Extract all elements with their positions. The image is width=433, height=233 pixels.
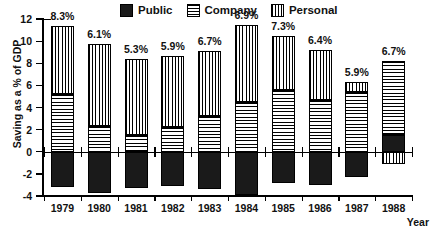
x-tick-mark	[154, 195, 155, 201]
bar-1981[interactable]: 5.3%	[125, 0, 148, 233]
x-tick-mark	[302, 195, 303, 201]
segment-company	[235, 102, 258, 152]
y-tick-label: 6	[8, 80, 32, 91]
bar-value-label-1983: 6.7%	[183, 36, 237, 47]
zero-tick-mark	[154, 147, 155, 157]
y-tick-mark	[36, 107, 43, 108]
segment-company	[161, 127, 184, 151]
segment-public	[51, 152, 74, 187]
y-tick-mark	[36, 173, 43, 174]
bar-value-label-1987: 5.9%	[330, 67, 384, 78]
bar-1986[interactable]: 6.4%	[309, 0, 332, 233]
bar-1982[interactable]: 5.9%	[161, 0, 184, 233]
zero-tick-mark	[228, 147, 229, 157]
segment-personal	[309, 50, 332, 100]
segment-public	[125, 152, 148, 189]
segment-public	[309, 152, 332, 185]
segment-personal	[161, 56, 184, 128]
y-tick-mark	[36, 129, 43, 130]
x-tick-mark	[412, 195, 413, 201]
segment-company	[125, 135, 148, 152]
bar-value-label-1980: 6.1%	[72, 29, 126, 40]
x-tick-mark	[191, 195, 192, 201]
zero-tick-mark	[118, 147, 119, 157]
x-tick-mark	[265, 195, 266, 201]
y-tick-label: 8	[8, 58, 32, 69]
segment-company	[309, 100, 332, 152]
y-tick-mark	[36, 151, 43, 152]
segment-public	[382, 135, 405, 152]
y-tick-label: -4	[8, 191, 32, 202]
segment-company	[198, 116, 221, 151]
segment-public	[345, 152, 368, 177]
segment-public	[272, 152, 295, 183]
segment-company	[382, 61, 405, 135]
segment-personal	[125, 59, 148, 135]
segment-personal	[198, 51, 221, 116]
zero-tick-mark	[375, 147, 376, 157]
y-tick-label: -2	[8, 169, 32, 180]
segment-personal	[235, 25, 258, 102]
zero-tick-mark	[302, 147, 303, 157]
bar-1983[interactable]: 6.7%	[198, 0, 221, 233]
y-tick-label: 12	[8, 14, 32, 25]
zero-tick-mark	[81, 147, 82, 157]
y-tick-mark	[36, 195, 43, 196]
x-tick-mark	[375, 195, 376, 201]
segment-public	[161, 152, 184, 186]
y-tick-label: 2	[8, 125, 32, 136]
segment-personal	[88, 44, 111, 126]
x-axis-title: Year	[407, 216, 429, 228]
x-tick-mark	[118, 195, 119, 201]
zero-tick-mark	[265, 147, 266, 157]
callout-leader-line	[39, 19, 51, 20]
bar-1980[interactable]: 6.1%	[88, 0, 111, 233]
bar-1979[interactable]: 8.3%	[51, 0, 74, 233]
bar-value-label-1988: 6.7%	[367, 46, 421, 57]
y-tick-mark	[36, 85, 43, 86]
zero-tick-mark	[338, 147, 339, 157]
zero-tick-mark	[44, 147, 45, 157]
chart-figure: Public Company Personal Saving as a % of…	[0, 0, 433, 233]
x-tick-mark	[228, 195, 229, 201]
segment-public	[88, 152, 111, 193]
y-tick-mark	[36, 63, 43, 64]
segment-personal	[345, 82, 368, 92]
bar-1984[interactable]: 6.9%	[235, 0, 258, 233]
zero-tick-mark	[191, 147, 192, 157]
x-tick-mark	[338, 195, 339, 201]
bar-1985[interactable]: 7.3%	[272, 0, 295, 233]
y-tick-label: 0	[8, 147, 32, 158]
segment-personal	[51, 26, 74, 95]
segment-company	[88, 126, 111, 151]
segment-public	[235, 152, 258, 195]
segment-public	[198, 152, 221, 190]
bar-value-label-1984: 6.9%	[219, 10, 273, 21]
segment-company	[51, 94, 74, 152]
x-tick-mark	[81, 195, 82, 201]
segment-personal	[272, 36, 295, 90]
y-tick-mark	[36, 41, 43, 42]
bar-1987[interactable]: 5.9%	[345, 0, 368, 233]
y-tick-label: 4	[8, 103, 32, 114]
segment-company	[272, 90, 295, 152]
bar-value-label-1986: 6.4%	[293, 35, 347, 46]
y-tick-label: 10	[8, 36, 32, 47]
segment-company	[345, 92, 368, 152]
zero-tick-mark	[412, 147, 413, 157]
segment-personal	[382, 152, 405, 164]
bar-1988[interactable]: 6.7%	[382, 0, 405, 233]
x-tick-mark	[44, 195, 45, 201]
bar-value-label-1985: 7.3%	[256, 21, 310, 32]
